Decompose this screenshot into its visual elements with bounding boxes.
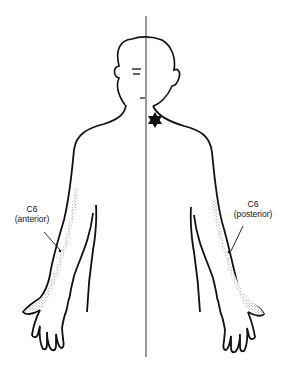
posterior-leader-dot	[228, 251, 231, 254]
anterior-leader-dot	[59, 250, 62, 253]
c6-posterior-label-title: C6	[227, 199, 279, 209]
body-diagram	[0, 0, 285, 378]
c6-posterior-label: C6 (posterior)	[227, 199, 279, 219]
posterior-leader-line	[231, 226, 243, 251]
c6-anterior-label-title: C6	[10, 204, 54, 214]
c6-posterior-label-subtitle: (posterior)	[227, 209, 279, 219]
c6-anterior-label: C6 (anterior)	[10, 204, 54, 224]
c6-anterior-label-subtitle: (anterior)	[10, 214, 54, 224]
head-outline	[115, 37, 180, 106]
